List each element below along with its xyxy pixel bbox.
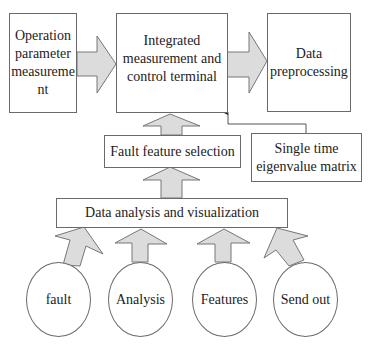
operation-parameter-label: Operation parameter measureme nt	[11, 27, 75, 99]
data-analysis-box: Data analysis and visualization	[56, 198, 288, 228]
preprocessing-label: Data preprocessing	[270, 45, 348, 81]
arrow-sendout-circle	[264, 228, 308, 266]
arrow-operation-to-terminal	[77, 36, 116, 93]
arrow-analysis-to-fault	[143, 167, 200, 198]
circle-send-out-label: Send out	[281, 292, 330, 308]
arrow-analysis-circle	[115, 229, 167, 262]
terminal-box: Integrated measurement and control termi…	[116, 13, 228, 113]
arrow-features-circle	[197, 229, 250, 262]
arrow-terminal-to-preprocessing	[227, 32, 267, 93]
fault-feature-box: Fault feature selection	[104, 135, 241, 168]
operation-parameter-box: Operation parameter measureme nt	[9, 13, 77, 113]
circle-analysis-label: Analysis	[116, 292, 165, 308]
single-time-box: Single time eigenvalue matrix	[251, 133, 362, 182]
circle-send-out: Send out	[273, 262, 338, 337]
single-time-label: Single time eigenvalue matrix	[256, 140, 357, 176]
terminal-label: Integrated measurement and control termi…	[123, 32, 221, 86]
circle-analysis: Analysis	[108, 262, 173, 337]
circle-features: Features	[192, 262, 257, 337]
arrow-fault-to-terminal	[143, 114, 200, 135]
data-analysis-label: Data analysis and visualization	[85, 204, 259, 222]
circle-features-label: Features	[201, 292, 248, 308]
connector-single-time-to-terminal	[228, 112, 306, 133]
preprocessing-box: Data preprocessing	[267, 13, 351, 112]
arrow-fault-circle	[55, 227, 103, 266]
fault-feature-label: Fault feature selection	[110, 143, 234, 161]
circle-fault-label: fault	[46, 292, 72, 308]
circle-fault: fault	[26, 262, 91, 337]
